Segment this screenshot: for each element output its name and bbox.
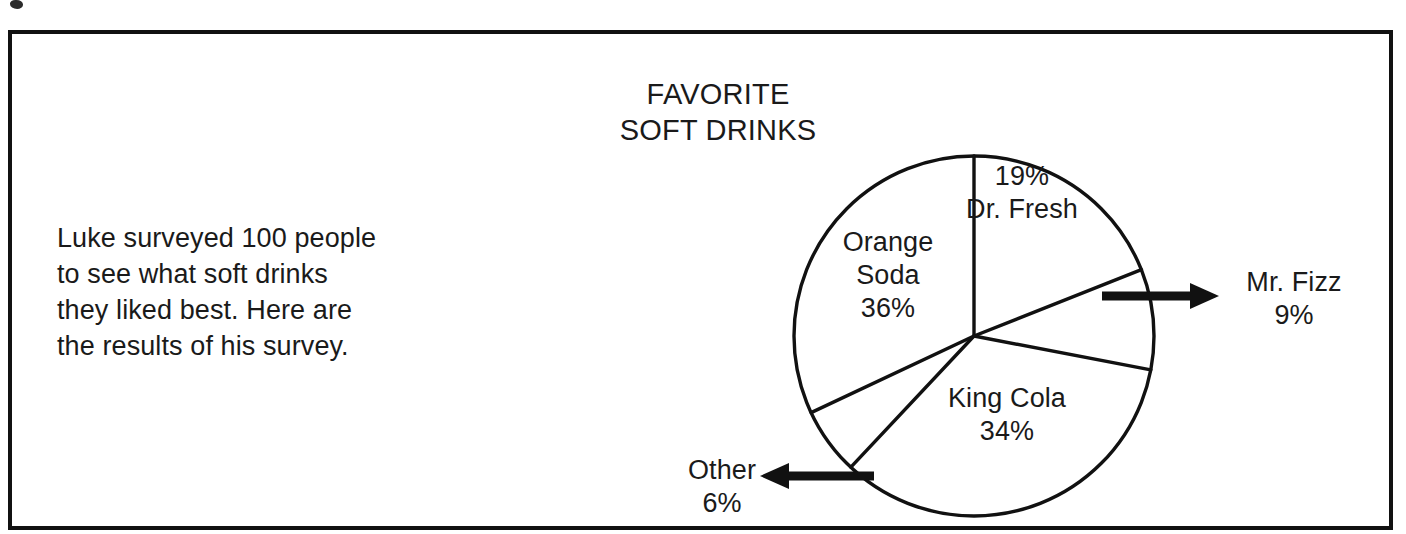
pie-slice-label-dr-fresh: 19% Dr. Fresh xyxy=(927,160,1117,226)
pie-divider-mrfizz-kingcola xyxy=(974,336,1151,370)
pie-slice-label-king-cola: King Cola 34% xyxy=(902,382,1112,448)
scan-artifact-speck xyxy=(10,0,23,9)
pie-slice-label-other: Other 6% xyxy=(647,454,797,520)
pie-divider-drfresh-mrfizz xyxy=(974,270,1141,336)
pie-slice-label-mr-fizz: Mr. Fizz 9% xyxy=(1204,266,1384,332)
pie-chart-figure: 19% Dr. Fresh Orange Soda 36% King Cola … xyxy=(612,114,1402,534)
leader-arrow-mr-fizz xyxy=(1102,283,1219,309)
pie-slice-label-orange-soda: Orange Soda 36% xyxy=(808,226,968,325)
word-problem-text: Luke surveyed 100 people to see what sof… xyxy=(57,220,457,364)
worksheet-frame: FAVORITE SOFT DRINKS Luke surveyed 100 p… xyxy=(8,30,1393,530)
